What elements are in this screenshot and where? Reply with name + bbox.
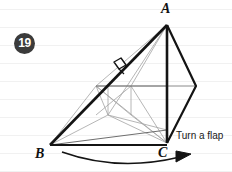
vertex-label-c: C (158, 145, 167, 161)
outline-triangle-abc (50, 25, 167, 145)
step-number-badge: 19 (14, 33, 35, 54)
edge-AB (50, 25, 167, 145)
turn-a-flap-caption: Turn a flap (176, 130, 223, 141)
diagram-page: 19 A B C Turn a flap (0, 0, 232, 172)
vertex-label-b: B (35, 146, 44, 162)
right-flap (167, 25, 196, 143)
turn-arrow-head (176, 151, 191, 162)
vertex-label-a: A (161, 1, 170, 17)
